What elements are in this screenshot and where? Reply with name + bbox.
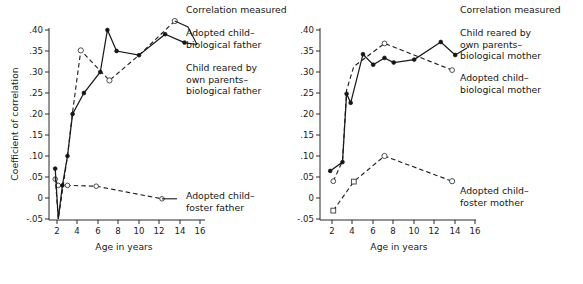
mother-yticklabel: .25 — [300, 88, 314, 98]
data-point — [412, 58, 416, 62]
data-point — [65, 183, 70, 188]
mother-yticklabel: .35 — [300, 46, 314, 56]
father-x-axis-title: Age in years — [95, 241, 152, 252]
data-point — [115, 49, 119, 53]
mother-xticklabel: 16 — [470, 226, 481, 236]
panel-father: .40 .35 .30 .25 .20 .15 .10 .05 0 -.05 — [0, 0, 292, 284]
father-series-adopted-foster — [53, 177, 164, 201]
data-point — [341, 160, 345, 164]
mother-y-ticks — [316, 30, 320, 219]
data-point — [106, 28, 110, 32]
data-point — [137, 53, 141, 57]
father-series-adopted-biological — [55, 18, 177, 219]
father-xticklabel: 6 — [95, 226, 100, 236]
father-x-ticks — [57, 220, 200, 224]
father-yticklabel: 0 — [38, 193, 43, 203]
father-xticklabel: 10 — [134, 226, 145, 236]
mother-yticklabel: .10 — [300, 151, 314, 161]
data-point — [345, 92, 349, 96]
father-axis-lines — [49, 28, 205, 220]
data-point — [382, 153, 387, 158]
data-point — [94, 184, 99, 189]
mother-xticklabel: 12 — [429, 226, 440, 236]
mother-series-adopted-foster — [331, 153, 455, 213]
two-panel-correlation-figure: .40 .35 .30 .25 .20 .15 .10 .05 0 -.05 — [0, 0, 583, 284]
mother-x-ticklabels: 2 4 6 8 10 12 14 16 — [329, 226, 480, 236]
data-point — [351, 179, 356, 184]
data-point — [450, 68, 455, 73]
father-y-axis-title: Coefficient of correlation — [9, 67, 20, 180]
father-legend-own-parents-biological: Child reared by own parents– biological … — [186, 62, 286, 97]
mother-xticklabel: 10 — [409, 226, 420, 236]
father-yticklabel: -.05 — [26, 214, 43, 224]
data-point — [82, 91, 86, 95]
mother-legend-adopted-biological: Adopted child– biological mother — [460, 72, 570, 95]
father-xticklabel: 16 — [195, 226, 206, 236]
mother-yticklabel: -.05 — [297, 214, 314, 224]
data-point — [66, 154, 70, 158]
father-xticklabel: 14 — [175, 226, 186, 236]
mother-x-ticks — [332, 220, 475, 224]
mother-axis-lines — [320, 28, 476, 220]
father-yticklabel: .10 — [29, 151, 43, 161]
father-xticklabel: 8 — [115, 226, 120, 236]
mother-legend-own-parents-biological: Child reared by own parents– biological … — [460, 27, 570, 62]
panel-mother: .40 .35 .30 .25 .20 .15 .10 .05 0 -.05 — [291, 0, 583, 284]
data-point — [392, 61, 396, 65]
mother-xticklabel: 2 — [329, 226, 334, 236]
mother-yticklabel: .05 — [300, 172, 314, 182]
father-xticklabel: 12 — [154, 226, 165, 236]
data-point — [371, 63, 375, 67]
data-point — [361, 52, 365, 56]
data-point — [383, 56, 387, 60]
father-y-ticklabels: .40 .35 .30 .25 .20 .15 .10 .05 0 -.05 — [26, 25, 43, 224]
mother-y-ticklabels: .40 .35 .30 .25 .20 .15 .10 .05 0 -.05 — [297, 25, 314, 224]
mother-xticklabel: 14 — [450, 226, 461, 236]
data-point — [61, 184, 65, 188]
data-point — [107, 78, 112, 83]
data-point — [53, 167, 57, 171]
mother-yticklabel: .30 — [300, 67, 314, 77]
father-yticklabel: .30 — [29, 67, 43, 77]
data-point — [331, 208, 336, 213]
father-x-ticklabels: 2 4 6 8 10 12 14 16 — [54, 226, 205, 236]
father-legend-adopted-foster: Adopted child– foster father — [186, 190, 286, 213]
mother-xticklabel: 8 — [390, 226, 395, 236]
mother-series-own-parents-biological — [328, 40, 457, 173]
data-point — [439, 40, 443, 44]
father-y-ticks — [45, 30, 49, 219]
mother-x-axis-title: Age in years — [370, 241, 427, 252]
father-yticklabel: .05 — [29, 172, 43, 182]
mother-legend-heading: Correlation measured — [460, 4, 561, 15]
mother-legend-adopted-foster: Adopted child– foster mother — [460, 185, 570, 208]
father-yticklabel: .25 — [29, 88, 43, 98]
data-point — [450, 179, 455, 184]
father-legend-adopted-biological: Adopted child– biological father — [186, 27, 286, 50]
father-yticklabel: .35 — [29, 46, 43, 56]
data-point — [349, 101, 353, 105]
data-point — [78, 48, 83, 53]
mother-xticklabel: 6 — [370, 226, 375, 236]
data-point — [382, 41, 387, 46]
data-point — [98, 70, 102, 74]
father-xticklabel: 2 — [54, 226, 59, 236]
father-yticklabel: .15 — [29, 130, 43, 140]
mother-yticklabel: .15 — [300, 130, 314, 140]
data-point — [331, 179, 336, 184]
father-legend-heading: Correlation measured — [186, 4, 287, 15]
mother-yticklabel: .20 — [300, 109, 314, 119]
father-yticklabel: .40 — [29, 25, 43, 35]
mother-xticklabel: 4 — [349, 226, 354, 236]
data-point — [163, 32, 167, 36]
father-xticklabel: 4 — [74, 226, 79, 236]
father-yticklabel: .20 — [29, 109, 43, 119]
data-point — [172, 18, 177, 23]
data-point — [328, 169, 332, 173]
mother-yticklabel: 0 — [309, 193, 314, 203]
mother-yticklabel: .40 — [300, 25, 314, 35]
data-point — [71, 112, 75, 116]
